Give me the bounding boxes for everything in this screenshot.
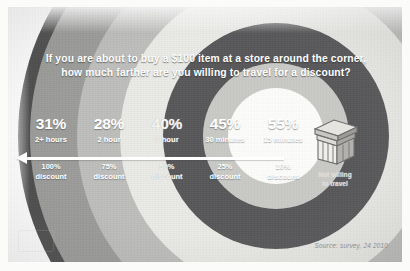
- travel-time-label: 15 minutes: [254, 134, 312, 145]
- data-column: 55% 15 minutes 10% discount: [254, 115, 312, 205]
- store-caption-line-1: Not willing: [296, 170, 374, 179]
- percent-value: 40%: [138, 115, 196, 133]
- discount-amount: 100%: [22, 162, 80, 172]
- data-column: 28% 2 hour 75% discount: [80, 115, 138, 205]
- discount-word: discount: [138, 172, 196, 182]
- discount-label: 75% discount: [80, 162, 138, 181]
- watermark: [18, 230, 54, 252]
- headline: If you are about to buy a $100 item at a…: [30, 52, 382, 80]
- percent-value: 55%: [254, 115, 312, 133]
- discount-label: 100% discount: [22, 162, 80, 181]
- source-attribution: Source: survey, 24 2010: [315, 242, 388, 249]
- travel-time-label: 1 hour: [138, 134, 196, 145]
- data-column: 45% 30 minutes 25% discount: [196, 115, 254, 205]
- travel-time-label: 2 hour: [80, 134, 138, 145]
- headline-line-1: If you are about to buy a $100 item at a…: [30, 52, 382, 66]
- percent-value: 28%: [80, 115, 138, 133]
- discount-word: discount: [196, 172, 254, 182]
- travel-time-label: 30 minutes: [196, 134, 254, 145]
- discount-amount: 25%: [196, 162, 254, 172]
- store-caption-line-2: to travel: [296, 179, 374, 188]
- distance-arrow-head-icon: [16, 152, 27, 164]
- discount-amount: 50%: [138, 162, 196, 172]
- infographic-poster: If you are about to buy a $100 item at a…: [0, 0, 410, 271]
- discount-label: 50% discount: [138, 162, 196, 181]
- headline-line-2: how much farther are you willing to trav…: [30, 66, 382, 80]
- infographic-canvas: If you are about to buy a $100 item at a…: [8, 7, 402, 262]
- data-column: 31% 2+ hours 100% discount: [22, 115, 80, 205]
- distance-arrow-line: [22, 157, 284, 160]
- discount-word: discount: [22, 172, 80, 182]
- store-icon: [307, 115, 361, 165]
- travel-time-label: 2+ hours: [22, 134, 80, 145]
- data-column: 40% 1 hour 50% discount: [138, 115, 196, 205]
- percent-value: 31%: [22, 115, 80, 133]
- discount-word: discount: [80, 172, 138, 182]
- store-caption: Not willing to travel: [296, 170, 374, 188]
- data-columns: 31% 2+ hours 100% discount 28% 2 hour 75…: [22, 115, 312, 205]
- discount-amount: 75%: [80, 162, 138, 172]
- percent-value: 45%: [196, 115, 254, 133]
- discount-label: 25% discount: [196, 162, 254, 181]
